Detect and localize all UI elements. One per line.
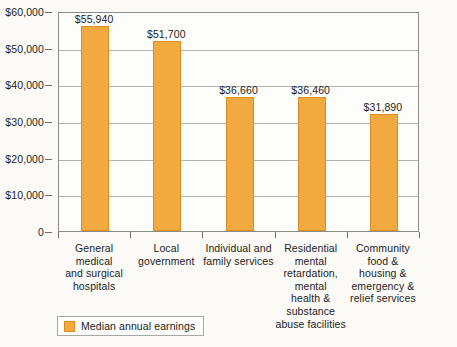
x-axis-category-line: government bbox=[130, 255, 202, 268]
x-axis-category-line: Individual and bbox=[202, 242, 274, 255]
x-axis-category-line: retardation, bbox=[275, 267, 347, 280]
x-axis-category-line: housing & bbox=[347, 267, 419, 280]
y-axis-tick-label: $30,000 bbox=[5, 116, 44, 128]
y-axis-tick-mark bbox=[45, 122, 52, 123]
y-axis-tick-mark bbox=[45, 12, 52, 13]
bar-value-label: $55,940 bbox=[54, 13, 134, 25]
bar bbox=[153, 41, 181, 231]
x-axis-category-label: Individual andfamily services bbox=[202, 242, 274, 267]
x-axis-category-line: relief services bbox=[347, 292, 419, 305]
legend-swatch-icon bbox=[64, 321, 75, 332]
x-axis-category-label: General medicaland surgicalhospitals bbox=[58, 242, 130, 292]
y-axis: 0$10,000$20,000$30,000$40,000$50,000$60,… bbox=[0, 0, 52, 240]
bar-value-label: $36,460 bbox=[271, 84, 351, 96]
y-axis-tick-label: $40,000 bbox=[5, 79, 44, 91]
chart-legend: Median annual earnings bbox=[57, 316, 204, 336]
y-axis-tick-mark bbox=[45, 232, 52, 233]
x-axis-labels: General medicaland surgicalhospitalsLoca… bbox=[58, 242, 419, 312]
x-axis-tick-mark bbox=[419, 232, 420, 238]
bar-value-label: $31,890 bbox=[343, 101, 423, 113]
x-axis-category-label: Residentialmentalretardation,mentalhealt… bbox=[275, 242, 347, 330]
x-axis-tick-mark bbox=[58, 232, 59, 238]
x-axis-category-line: and surgical bbox=[58, 267, 130, 280]
bar bbox=[81, 26, 109, 231]
y-axis-tick-mark bbox=[45, 159, 52, 160]
x-axis-category-label: Localgovernment bbox=[130, 242, 202, 267]
legend-label: Median annual earnings bbox=[81, 320, 195, 332]
bar-value-label: $51,700 bbox=[126, 28, 206, 40]
x-axis-tick-mark bbox=[275, 232, 276, 238]
y-axis-tick-label: $20,000 bbox=[5, 153, 44, 165]
bars-layer bbox=[59, 13, 418, 231]
bar bbox=[370, 114, 398, 231]
x-axis-category-line: mental bbox=[275, 280, 347, 293]
bar bbox=[226, 97, 254, 231]
x-axis-category-line: Community bbox=[347, 242, 419, 255]
x-axis-tick-mark bbox=[130, 232, 131, 238]
bar-value-label: $36,660 bbox=[199, 84, 279, 96]
x-axis-category-line: Residential bbox=[275, 242, 347, 255]
chart-page: 0$10,000$20,000$30,000$40,000$50,000$60,… bbox=[0, 0, 457, 347]
y-axis-tick-mark bbox=[45, 49, 52, 50]
y-axis-tick-label: 0 bbox=[38, 226, 44, 238]
x-axis-category-line: abuse facilities bbox=[275, 318, 347, 331]
y-axis-tick-mark bbox=[45, 195, 52, 196]
plot-area bbox=[58, 12, 419, 232]
y-axis-tick-label: $10,000 bbox=[5, 189, 44, 201]
x-axis-category-line: substance bbox=[275, 305, 347, 318]
x-axis-category-line: Local bbox=[130, 242, 202, 255]
x-axis-category-line: health & bbox=[275, 292, 347, 305]
x-axis-category-line: hospitals bbox=[58, 280, 130, 293]
x-axis-category-line: General medical bbox=[58, 242, 130, 267]
y-axis-tick-mark bbox=[45, 85, 52, 86]
x-axis-category-line: mental bbox=[275, 255, 347, 268]
x-axis-category-line: family services bbox=[202, 255, 274, 268]
x-axis-category-label: Communityfood &housing &emergency &relie… bbox=[347, 242, 419, 305]
x-axis-tick-mark bbox=[347, 232, 348, 238]
x-axis-category-line: emergency & bbox=[347, 280, 419, 293]
bar bbox=[298, 97, 326, 231]
y-axis-tick-label: $50,000 bbox=[5, 43, 44, 55]
y-axis-tick-label: $60,000 bbox=[5, 6, 44, 18]
x-axis-category-line: food & bbox=[347, 255, 419, 268]
x-axis-tick-mark bbox=[202, 232, 203, 238]
